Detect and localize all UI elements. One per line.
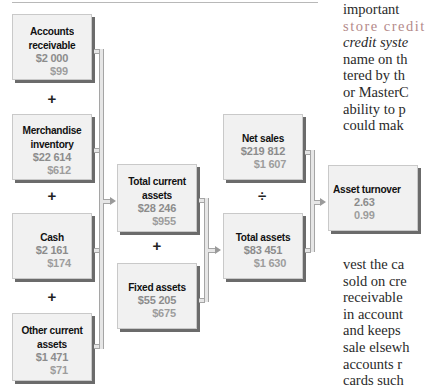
box-value: $2 161 — [13, 244, 91, 257]
text-line: sale elsewh — [343, 339, 409, 356]
text-line: and keeps — [343, 322, 409, 339]
connector — [208, 248, 215, 253]
box-value: $28 246 — [118, 202, 196, 215]
box-label: Asset turnover — [333, 182, 407, 196]
box-label: receivable — [18, 38, 87, 52]
text-line: important — [343, 1, 426, 18]
text-line: accounts r — [343, 356, 409, 373]
arrow-icon — [110, 197, 116, 205]
box-label: Net sales — [229, 131, 298, 145]
plus-operator: + — [147, 238, 167, 253]
box-total-assets: Total assets $83 451 $1 630 — [223, 213, 303, 279]
box-label: Total assets — [229, 230, 298, 244]
box-secondary-value: $612 — [13, 164, 91, 177]
box-secondary-value: $955 — [118, 215, 196, 228]
text-line: ability to p — [343, 101, 426, 118]
text-line-highlight: store credit — [343, 18, 426, 35]
box-asset-turnover: Asset turnover 2.63 0.99 — [328, 165, 418, 231]
box-merchandise-inventory: Merchandise inventory $22 614 $612 — [12, 114, 92, 180]
plus-operator: + — [42, 188, 62, 203]
arrow-icon — [215, 246, 221, 254]
box-value: $55 205 — [118, 294, 196, 307]
box-label: Fixed assets — [123, 280, 192, 294]
box-secondary-value: $71 — [13, 364, 91, 377]
box-other-current-assets: Other current assets $1 471 $71 — [12, 313, 92, 381]
box-secondary-value: $675 — [118, 307, 196, 320]
box-value: 2.63 — [333, 196, 417, 209]
body-text-top: important store credit credit syste name… — [343, 1, 426, 134]
text-line: cards such — [343, 372, 409, 389]
box-value: $2 000 — [13, 52, 91, 65]
box-secondary-value: 0.99 — [333, 209, 417, 222]
box-label: Cash — [18, 230, 87, 244]
box-secondary-value: $174 — [13, 257, 91, 270]
arrow-icon — [320, 198, 326, 206]
box-net-sales: Net sales $219 812 $1 607 — [223, 114, 303, 180]
top-rule — [12, 2, 318, 3]
box-secondary-value: $99 — [13, 65, 91, 78]
text-line: or MasterC — [343, 84, 426, 101]
text-line: vest the ca — [343, 256, 409, 273]
box-accounts-receivable: Accounts receivable $2 000 $99 — [12, 14, 92, 80]
text-line: sold on cre — [343, 273, 409, 290]
box-label: Total current — [123, 174, 192, 188]
text-line: name on th — [343, 51, 426, 68]
box-fixed-assets: Fixed assets $55 205 $675 — [117, 263, 197, 329]
text-line: could mak — [343, 117, 426, 134]
box-label: Accounts — [18, 24, 87, 38]
text-line-italic: credit syste — [343, 34, 426, 51]
box-secondary-value: $1 607 — [224, 158, 302, 171]
box-label: assets — [123, 188, 192, 202]
box-secondary-value: $1 630 — [224, 257, 302, 270]
body-text-bottom: vest the ca sold on cre receivable in ac… — [343, 256, 409, 389]
box-cash: Cash $2 161 $174 — [12, 213, 92, 279]
text-line: receivable — [343, 289, 409, 306]
box-label: inventory — [18, 137, 87, 151]
plus-operator: + — [42, 289, 62, 304]
box-value: $22 614 — [13, 151, 91, 164]
plus-operator: + — [42, 91, 62, 106]
box-value: $83 451 — [224, 244, 302, 257]
divide-operator: ÷ — [252, 188, 272, 203]
box-value: $219 812 — [224, 145, 302, 158]
box-total-current-assets: Total current assets $28 246 $955 — [117, 164, 197, 232]
box-value: $1 471 — [13, 351, 91, 364]
box-label: Merchandise — [18, 123, 87, 137]
text-line: tered by th — [343, 67, 426, 84]
box-label: Other current — [18, 323, 87, 337]
text-line: in account — [343, 306, 409, 323]
box-label: assets — [18, 337, 87, 351]
